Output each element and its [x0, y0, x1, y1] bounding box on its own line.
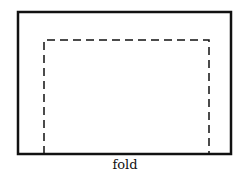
fold-label: fold: [0, 157, 243, 172]
diagram-canvas: [0, 0, 243, 174]
inner-dashed-outline: [44, 40, 209, 154]
outer-rectangle: [18, 12, 231, 154]
